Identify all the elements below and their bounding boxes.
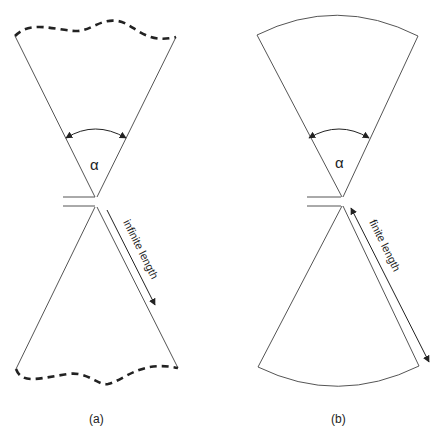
cone-b-bottom-arc-boundary — [258, 366, 419, 386]
panel-a: α infinite length (a) — [15, 21, 178, 426]
antenna-diagram: α infinite length (a) α finite length (b… — [0, 0, 438, 436]
caption-b: (b) — [331, 412, 346, 426]
cone-b-top-right-edge — [343, 36, 418, 197]
cone-b-top-left-edge — [257, 35, 342, 197]
cone-b-top-arc-boundary — [257, 15, 418, 36]
cone-a-bottom-left-edge — [16, 207, 95, 369]
length-arrow-b — [351, 208, 429, 362]
angle-label-b: α — [335, 154, 344, 171]
panel-b: α finite length (b) — [257, 15, 429, 426]
cone-a-top-right-edge — [97, 37, 176, 197]
cone-a-bottom-infinite-boundary — [16, 366, 178, 384]
cone-b-bottom-left-edge — [258, 206, 342, 367]
cone-a-top-infinite-boundary — [15, 21, 176, 39]
angle-label-a: α — [90, 156, 99, 173]
caption-a: (a) — [89, 412, 104, 426]
cone-a-top-left-edge — [15, 36, 95, 197]
angle-arc-b — [309, 129, 369, 138]
angle-arc-a — [66, 129, 126, 138]
length-label-b: finite length — [367, 218, 403, 274]
